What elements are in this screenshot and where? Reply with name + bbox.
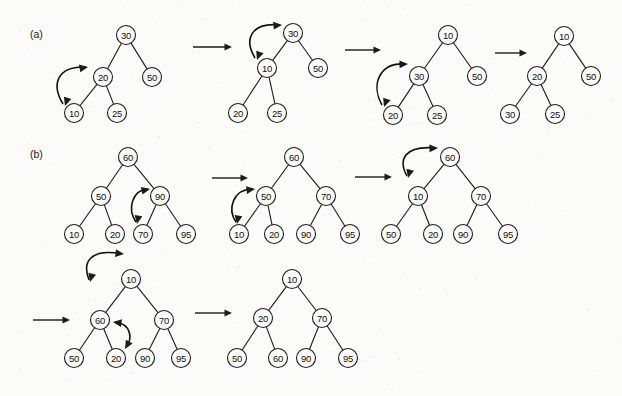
tree-node[interactable]: 20 <box>254 309 273 328</box>
tree-node[interactable]: 20 <box>528 67 547 86</box>
tree-node[interactable]: 60 <box>119 148 138 167</box>
tree-node[interactable]: 10 <box>283 270 302 289</box>
tree-node[interactable]: 20 <box>107 349 126 368</box>
tree-node[interactable]: 60 <box>441 148 460 167</box>
node-label: 20 <box>388 110 398 121</box>
tree-node[interactable]: 50 <box>257 187 276 206</box>
heap-rotation-figure: (a)(b)3020501025301050202510305020251020… <box>0 0 622 396</box>
swap-arrow-b-1 <box>132 187 150 224</box>
tree-a-2-edges <box>243 41 312 105</box>
tree-node[interactable]: 30 <box>501 105 520 124</box>
step-arrow-a-1 <box>193 44 232 51</box>
tree-node[interactable]: 25 <box>546 105 565 124</box>
node-label: 50 <box>147 72 157 83</box>
tree-edge <box>397 204 413 227</box>
tree-edge <box>422 205 430 225</box>
tree-edge <box>272 165 289 189</box>
tree-node[interactable]: 10 <box>555 27 574 46</box>
tree-edge <box>331 204 345 226</box>
node-label: 10 <box>234 229 244 240</box>
tree-node[interactable]: 25 <box>268 104 287 123</box>
tree-edge <box>147 205 156 226</box>
tree-node[interactable]: 50 <box>143 68 162 87</box>
tree-node[interactable]: 50 <box>468 67 487 86</box>
tree-edge <box>456 164 475 188</box>
tree-edge <box>299 41 313 61</box>
node-label: 25 <box>112 108 122 119</box>
tree-b-1: 60509010207095 <box>65 148 196 244</box>
tree-edge <box>108 43 122 68</box>
tree-node[interactable]: 25 <box>428 106 447 125</box>
tree-node[interactable]: 70 <box>134 225 153 244</box>
tree-edge <box>245 204 261 227</box>
tree-node[interactable]: 50 <box>382 225 401 244</box>
tree-a-2: 3010502025 <box>229 22 328 123</box>
tree-node[interactable]: 90 <box>136 349 155 368</box>
swap-arrow-b-4-lower-head-end <box>113 319 122 327</box>
tree-edge <box>300 164 320 188</box>
tree-node[interactable]: 90 <box>297 349 316 368</box>
node-label: 60 <box>289 152 299 163</box>
step-arrow-a-1-head <box>225 44 233 51</box>
tree-node[interactable]: 60 <box>91 311 110 330</box>
tree-edge <box>80 204 96 227</box>
tree-node[interactable]: 95 <box>339 349 358 368</box>
step-arrow-a-3-head <box>520 50 528 57</box>
tree-edge <box>327 326 343 350</box>
tree-node[interactable]: 95 <box>341 225 360 244</box>
tree-node[interactable]: 50 <box>582 67 601 86</box>
swap-arrow-b-3-head-start <box>406 169 414 178</box>
node-label: 70 <box>138 229 148 240</box>
tree-node[interactable]: 10 <box>409 187 428 206</box>
tree-node[interactable]: 20 <box>94 68 113 87</box>
tree-node[interactable]: 30 <box>410 67 429 86</box>
tree-node[interactable]: 10 <box>65 104 84 123</box>
tree-node[interactable]: 20 <box>106 225 125 244</box>
tree-node[interactable]: 90 <box>151 187 170 206</box>
tree-node[interactable]: 10 <box>258 59 277 78</box>
tree-node[interactable]: 60 <box>285 148 304 167</box>
tree-edge <box>542 44 558 68</box>
tree-node[interactable]: 25 <box>108 104 127 123</box>
tree-node[interactable]: 95 <box>172 349 191 368</box>
tree-node[interactable]: 90 <box>454 225 473 244</box>
tree-node[interactable]: 20 <box>229 104 248 123</box>
node-label: 20 <box>98 72 108 83</box>
tree-node[interactable]: 70 <box>317 187 336 206</box>
node-label: 95 <box>181 229 191 240</box>
tree-node[interactable]: 95 <box>499 225 518 244</box>
node-label: 10 <box>559 31 569 42</box>
tree-node[interactable]: 20 <box>265 225 284 244</box>
swap-arrow-b-4-lower <box>113 319 133 349</box>
node-label: 90 <box>301 229 311 240</box>
node-label: 20 <box>428 229 438 240</box>
node-label: 90 <box>140 353 150 364</box>
tree-edge <box>516 84 532 107</box>
tree-node[interactable]: 50 <box>92 187 111 206</box>
swap-arrow-a-3-curve <box>377 64 406 105</box>
tree-node[interactable]: 50 <box>309 59 328 78</box>
tree-node[interactable]: 70 <box>155 311 174 330</box>
tree-node[interactable]: 30 <box>284 24 303 43</box>
swap-arrow-a-1-head-end <box>79 65 88 73</box>
node-label: 30 <box>121 30 131 41</box>
swap-arrow-b-2-head-start <box>235 215 243 224</box>
tree-edge <box>165 204 180 226</box>
tree-node[interactable]: 10 <box>65 225 84 244</box>
tree-node[interactable]: 70 <box>472 187 491 206</box>
tree-node[interactable]: 10 <box>230 225 249 244</box>
tree-node[interactable]: 50 <box>65 349 84 368</box>
tree-node[interactable]: 70 <box>313 309 332 328</box>
tree-b-5: 10207050609095 <box>228 270 358 368</box>
tree-edge <box>273 41 288 61</box>
tree-node[interactable]: 90 <box>297 225 316 244</box>
node-label: 20 <box>269 229 279 240</box>
tree-node[interactable]: 10 <box>122 270 141 289</box>
tree-node[interactable]: 20 <box>384 106 403 125</box>
tree-node[interactable]: 30 <box>117 26 136 45</box>
tree-node[interactable]: 95 <box>177 225 196 244</box>
tree-node[interactable]: 50 <box>228 349 247 368</box>
tree-node[interactable]: 60 <box>269 349 288 368</box>
tree-node[interactable]: 20 <box>424 225 443 244</box>
tree-node[interactable]: 10 <box>439 26 458 45</box>
